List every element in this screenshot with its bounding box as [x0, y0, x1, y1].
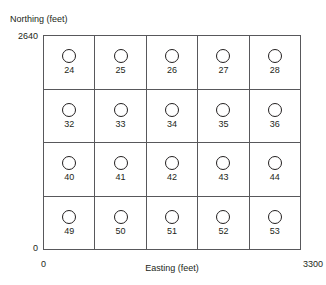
grid-cell-label: 32 [64, 119, 74, 129]
well-circle-icon [216, 49, 230, 63]
grid-cell-label: 24 [64, 65, 74, 75]
well-circle-icon [216, 103, 230, 117]
grid-cell[interactable]: 51 [147, 197, 198, 251]
well-circle-icon [268, 210, 282, 224]
grid-cell-label: 28 [270, 65, 280, 75]
well-circle-icon [165, 156, 179, 170]
northing-axis-title: Northing (feet) [10, 14, 68, 25]
grid-cell-label: 51 [167, 226, 177, 236]
grid-cell[interactable]: 25 [95, 36, 146, 90]
northing-max-tick-label: 2640 [4, 31, 38, 42]
well-circle-icon [62, 103, 76, 117]
grid-cell-label: 33 [116, 119, 126, 129]
grid-cell-label: 44 [270, 172, 280, 182]
grid-cell-label: 52 [218, 226, 228, 236]
grid-cell-label: 42 [167, 172, 177, 182]
grid-cell[interactable]: 53 [250, 197, 301, 251]
grid-cell[interactable]: 41 [95, 143, 146, 197]
well-circle-icon [165, 103, 179, 117]
well-circle-icon [114, 103, 128, 117]
grid-cell-label: 53 [270, 226, 280, 236]
grid-cell-label: 49 [64, 226, 74, 236]
grid-cell-label: 41 [116, 172, 126, 182]
grid-container: 2425262728323334353640414243444950515253 [43, 35, 301, 250]
well-circle-icon [62, 156, 76, 170]
grid-cell-label: 34 [167, 119, 177, 129]
well-circle-icon [62, 49, 76, 63]
grid-cell[interactable]: 34 [147, 90, 198, 144]
grid-cell[interactable]: 49 [44, 197, 95, 251]
well-circle-icon [165, 210, 179, 224]
grid-cell-label: 26 [167, 65, 177, 75]
well-circle-icon [216, 210, 230, 224]
well-location-grid-figure: Northing (feet) 2640 0 24252627283233343… [0, 0, 326, 285]
grid-cell[interactable]: 42 [147, 143, 198, 197]
well-circle-icon [62, 210, 76, 224]
grid-cell[interactable]: 27 [198, 36, 249, 90]
grid-cell-label: 27 [218, 65, 228, 75]
grid-cell[interactable]: 43 [198, 143, 249, 197]
northing-min-tick-label: 0 [4, 243, 38, 254]
grid-cell[interactable]: 40 [44, 143, 95, 197]
grid-cell-label: 35 [218, 119, 228, 129]
grid-cell[interactable]: 36 [250, 90, 301, 144]
grid-cell-label: 43 [218, 172, 228, 182]
well-circle-icon [268, 103, 282, 117]
grid-cell[interactable]: 24 [44, 36, 95, 90]
easting-axis-title: Easting (feet) [43, 263, 301, 274]
grid-cell-label: 25 [116, 65, 126, 75]
grid-cell[interactable]: 44 [250, 143, 301, 197]
grid-cell-label: 50 [116, 226, 126, 236]
well-circle-icon [268, 156, 282, 170]
well-circle-icon [114, 156, 128, 170]
well-circle-icon [165, 49, 179, 63]
well-circle-icon [216, 156, 230, 170]
grid-cell[interactable]: 35 [198, 90, 249, 144]
well-circle-icon [114, 210, 128, 224]
grid-cell-label: 40 [64, 172, 74, 182]
grid-cell-label: 36 [270, 119, 280, 129]
grid-cell[interactable]: 28 [250, 36, 301, 90]
grid-cell[interactable]: 26 [147, 36, 198, 90]
well-circle-icon [268, 49, 282, 63]
grid-cell[interactable]: 32 [44, 90, 95, 144]
grid-cell[interactable]: 52 [198, 197, 249, 251]
easting-max-tick-label: 3300 [273, 259, 323, 270]
well-circle-icon [114, 49, 128, 63]
grid-cell[interactable]: 33 [95, 90, 146, 144]
grid-cell[interactable]: 50 [95, 197, 146, 251]
